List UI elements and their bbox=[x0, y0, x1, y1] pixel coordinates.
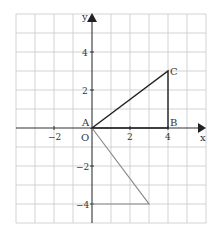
origin-label: O bbox=[81, 132, 89, 143]
coordinate-grid-diagram: −2 2 4 4 2 −2 −4 y x O A B C bbox=[0, 0, 213, 237]
grid-lines bbox=[16, 14, 206, 223]
point-b-label: B bbox=[170, 117, 177, 128]
x-tick-label: −2 bbox=[48, 132, 61, 142]
point-c-label: C bbox=[170, 66, 178, 77]
y-tick-label: −2 bbox=[76, 162, 89, 172]
y-tick-label: 4 bbox=[82, 48, 88, 58]
x-tick-label: 4 bbox=[165, 132, 171, 142]
y-tick-label: 2 bbox=[82, 86, 88, 96]
y-tick-label: −4 bbox=[76, 200, 90, 210]
point-a-label: A bbox=[81, 117, 90, 128]
x-tick-label: 2 bbox=[127, 132, 133, 142]
x-axis-label: x bbox=[200, 132, 206, 143]
y-axis-label: y bbox=[81, 11, 88, 22]
